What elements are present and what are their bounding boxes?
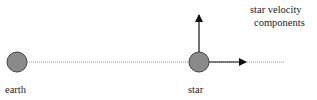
velocity-label-line1: star velocity	[250, 4, 302, 16]
star-circle	[189, 52, 209, 72]
diagram-canvas: earth star star velocity components	[0, 0, 317, 100]
star-label: star	[188, 84, 203, 96]
velocity-label-line2: components	[254, 17, 305, 29]
earth-circle	[7, 52, 27, 72]
earth-label: earth	[5, 84, 26, 96]
